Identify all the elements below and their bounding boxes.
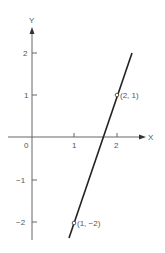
y-tick-label-m1: −1: [16, 176, 26, 185]
origin-label: 0: [24, 141, 29, 150]
y-axis-label: Y: [29, 16, 35, 25]
x-axis-label: X: [148, 133, 154, 142]
y-axis-arrow-icon: [30, 27, 35, 34]
point-label-1-m2: (1, −2): [77, 219, 101, 228]
point-1-m2: [72, 221, 76, 225]
y-tick-label-m2: −2: [16, 218, 26, 227]
plotted-line: [69, 53, 132, 238]
point-2-1: [115, 93, 119, 97]
x-tick-label-2: 2: [114, 141, 119, 150]
y-tick-label-2: 2: [23, 49, 28, 58]
x-axis-arrow-icon: [139, 135, 146, 140]
x-tick-label-1: 1: [72, 141, 77, 150]
point-label-2-1: (2, 1): [120, 91, 139, 100]
coordinate-plot: Y X 0 1 2 2 1 −1 −2 (2, 1) (1, −2): [0, 0, 165, 253]
y-tick-label-1: 1: [24, 91, 29, 100]
